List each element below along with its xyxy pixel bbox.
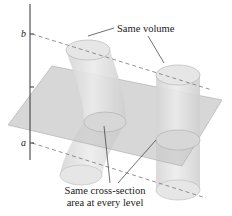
label-same-volume: Same volume: [117, 23, 175, 34]
label-a: a: [21, 137, 26, 148]
left-solid-bottom-face: [60, 165, 102, 185]
left-solid-top-face: [66, 40, 110, 60]
diagram: b a Same volume Same cross-section area …: [0, 0, 232, 216]
leader-volume-right: [148, 36, 164, 63]
leader-volume-left: [88, 28, 114, 36]
label-cross-section-2: area at every level: [67, 197, 144, 208]
left-solid-section: [84, 112, 126, 132]
right-solid-upper: [156, 65, 200, 150]
label-cross-section-1: Same cross-section: [65, 185, 147, 196]
label-b: b: [21, 28, 26, 39]
right-solid-bottom-face: [156, 180, 200, 200]
right-solid-section: [156, 130, 200, 150]
cavalieri-diagram: b a Same volume Same cross-section area …: [0, 0, 232, 216]
